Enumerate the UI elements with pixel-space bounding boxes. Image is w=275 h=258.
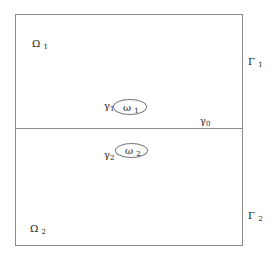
omega2-sub-symbol: ω xyxy=(125,145,133,156)
small-gamma2-label: γ2 xyxy=(104,150,114,163)
small-gamma2-subscript: 2 xyxy=(110,154,114,162)
omega2-sub-subscript: 2 xyxy=(136,150,140,158)
omega1-label: Ω 1 xyxy=(32,39,48,52)
omega1-subdomain-label: ω 1 xyxy=(123,103,139,116)
gamma2-symbol: Γ xyxy=(248,210,255,221)
omega2-symbol: Ω xyxy=(30,223,38,234)
gamma1-boundary-label: Γ 1 xyxy=(248,57,263,70)
omega2-subscript: 2 xyxy=(41,228,45,236)
gamma0-label: γ0 xyxy=(200,116,210,129)
omega2-subdomain-label: ω 2 xyxy=(125,146,141,159)
gamma1-subscript: 1 xyxy=(258,61,262,69)
outer-domain-frame xyxy=(15,14,243,246)
gamma2-subscript: 2 xyxy=(258,215,262,223)
omega1-sub-subscript: 1 xyxy=(134,107,138,115)
omega1-symbol: Ω xyxy=(32,38,40,49)
omega2-label: Ω 2 xyxy=(30,224,46,237)
gamma1-symbol: Γ xyxy=(248,56,255,67)
omega1-subdomain-ellipse: ω 1 xyxy=(113,99,147,115)
omega1-sub-symbol: ω xyxy=(123,102,131,113)
gamma2-boundary-label: Γ 2 xyxy=(248,211,263,224)
gamma0-subscript: 0 xyxy=(206,120,210,128)
omega2-subdomain-ellipse: ω 2 xyxy=(115,143,148,158)
omega1-subscript: 1 xyxy=(43,43,47,51)
